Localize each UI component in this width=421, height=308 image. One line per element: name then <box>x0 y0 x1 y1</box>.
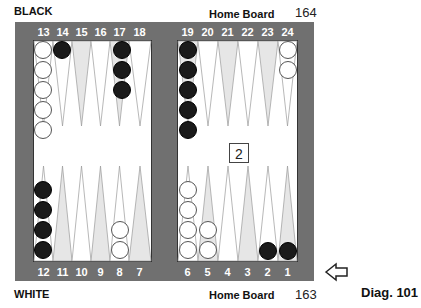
point-1-label: 1 <box>278 266 297 278</box>
bottom-home-board-label: Home Board <box>209 289 274 301</box>
checker-white-pt24[interactable] <box>279 41 297 59</box>
point-14-label: 14 <box>53 26 72 38</box>
point-5-label: 5 <box>198 266 217 278</box>
checker-white-pt13[interactable] <box>34 81 52 99</box>
arrow-left-icon <box>326 264 347 280</box>
point-17-label: 17 <box>110 26 129 38</box>
point-11-label: 11 <box>53 266 72 278</box>
checker-white-pt13[interactable] <box>34 61 52 79</box>
checker-white-pt13[interactable] <box>34 101 52 119</box>
checker-white-pt6[interactable] <box>179 201 197 219</box>
checker-white-pt24[interactable] <box>279 61 297 79</box>
point-7-label: 7 <box>130 266 149 278</box>
point-16-label: 16 <box>91 26 110 38</box>
checker-white-pt6[interactable] <box>179 221 197 239</box>
checker-white-pt6[interactable] <box>179 241 197 259</box>
point-12-label: 12 <box>34 266 53 278</box>
checker-white-pt5[interactable] <box>199 241 217 259</box>
point-10-label: 10 <box>72 266 91 278</box>
checker-white-pt5[interactable] <box>199 221 217 239</box>
checker-black-pt17[interactable] <box>113 61 131 79</box>
point-2-label: 2 <box>258 266 277 278</box>
checker-black-pt19[interactable] <box>179 81 197 99</box>
checker-black-pt12[interactable] <box>34 201 52 219</box>
checker-black-pt14[interactable] <box>53 41 71 59</box>
point-19-label: 19 <box>178 26 197 38</box>
checker-white-pt13[interactable] <box>34 121 52 139</box>
checker-black-pt17[interactable] <box>113 41 131 59</box>
point-20-label: 20 <box>198 26 217 38</box>
checker-white-pt8[interactable] <box>111 221 129 239</box>
checker-black-pt19[interactable] <box>179 61 197 79</box>
doubling-cube[interactable]: 2 <box>229 143 249 163</box>
point-8-label: 8 <box>110 266 129 278</box>
checker-white-pt6[interactable] <box>179 181 197 199</box>
checker-black-pt1[interactable] <box>279 242 297 260</box>
checker-black-pt2[interactable] <box>259 242 277 260</box>
point-9-label: 9 <box>91 266 110 278</box>
checker-white-pt13[interactable] <box>34 41 52 59</box>
bottom-player-label: WHITE <box>14 288 49 300</box>
checker-black-pt12[interactable] <box>34 241 52 259</box>
point-22-label: 22 <box>238 26 257 38</box>
point-21-label: 21 <box>218 26 237 38</box>
point-4-label: 4 <box>218 266 237 278</box>
checker-black-pt17[interactable] <box>113 81 131 99</box>
checker-black-pt19[interactable] <box>179 121 197 139</box>
point-15-label: 15 <box>72 26 91 38</box>
point-18-label: 18 <box>130 26 149 38</box>
checker-white-pt8[interactable] <box>111 241 129 259</box>
checker-black-pt12[interactable] <box>34 181 52 199</box>
point-23-label: 23 <box>258 26 277 38</box>
checker-black-pt19[interactable] <box>179 101 197 119</box>
bottom-pip-count: 163 <box>295 287 317 302</box>
checker-black-pt12[interactable] <box>34 221 52 239</box>
point-3-label: 3 <box>238 266 257 278</box>
point-24-label: 24 <box>278 26 297 38</box>
point-13-label: 13 <box>34 26 53 38</box>
diagram-label: Diag. 101 <box>361 285 418 300</box>
checker-black-pt19[interactable] <box>179 41 197 59</box>
point-6-label: 6 <box>178 266 197 278</box>
